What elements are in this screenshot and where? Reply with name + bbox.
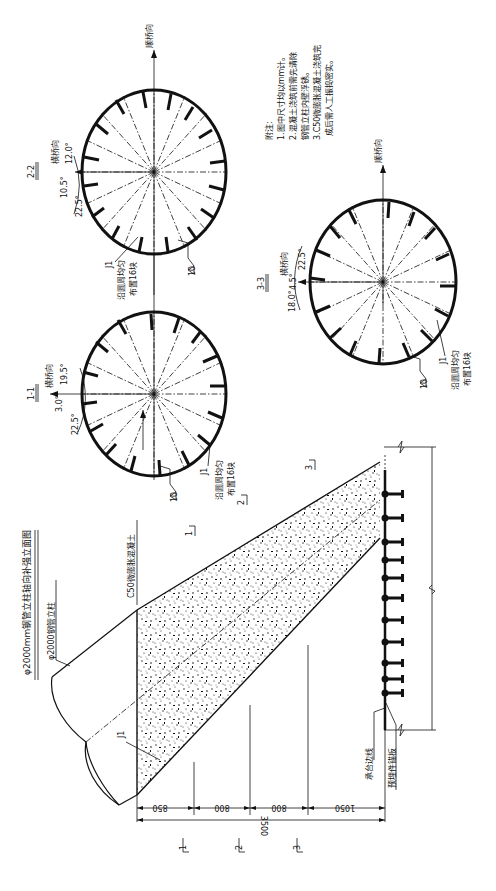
angle-label: 18.0°	[288, 290, 297, 312]
note-item: 3.C50微膨胀混凝土浇筑完	[312, 45, 322, 140]
dimension-value: 800	[271, 803, 286, 812]
longitudinal-direction-label: 顺桥向	[144, 24, 154, 48]
weld-size: 10	[170, 492, 179, 502]
longitudinal-direction-label: 顺桥向	[373, 139, 383, 163]
cap-edge-label: 承台边线	[364, 748, 374, 780]
note-item: 2.混凝土浇筑前需先清除	[288, 52, 298, 140]
distribution-note: 沿圆周均匀	[450, 350, 460, 390]
dimension-value: 1050	[335, 803, 355, 812]
j1-label: J1	[105, 261, 114, 269]
note-item: 1.图中尺寸均以mm计。	[276, 53, 286, 140]
weld-size: 10	[420, 379, 429, 389]
distribution-note: 布置16块	[462, 352, 472, 386]
dimension-total: 3500	[259, 816, 268, 836]
j1-label: J1	[117, 731, 126, 739]
angle-label: 22.5°	[75, 195, 84, 217]
pipe-break-line	[52, 677, 119, 805]
arrow-icon	[380, 165, 386, 173]
section-mark-1: 1	[179, 845, 188, 850]
angle-label: 3.0°	[55, 395, 64, 412]
notes-heading: 附注:	[264, 121, 274, 140]
section-1-1: 1-1 横桥向 19.5° 3.0° 22.5° J1 沿圆周均匀 布置16块 …	[27, 312, 236, 502]
j1-label: J1	[200, 468, 209, 476]
leader-line	[386, 703, 396, 725]
transverse-direction-label: 横桥向	[279, 252, 289, 276]
engineering-drawing: 2-2 横桥向 顺桥向 12.0° 10.5° 22.5° J1 沿圆周均匀 布…	[0, 0, 496, 891]
column-label: φ2000钢管立柱	[46, 602, 56, 660]
drawing-title: φ2000mm钢管立柱轴向补强立面图	[21, 530, 32, 675]
notes-block: 附注: 1.图中尺寸均以mm计。 2.混凝土浇筑前需先清除 钢管立柱内壁浮锈。 …	[264, 45, 334, 140]
j1-label: J1	[439, 357, 448, 365]
weld-leader	[410, 356, 426, 379]
distribution-note: 沿圆周均匀	[214, 460, 224, 500]
pipe-break-line	[85, 742, 119, 805]
angle-label: 22.5°	[298, 248, 307, 270]
anchor-plate-label: 预埋件锚板	[387, 748, 397, 788]
weld-leader	[160, 466, 176, 492]
section-mark-2: 2	[237, 500, 246, 505]
angle-label: 10.5°	[60, 176, 69, 198]
dimension-value: 850	[152, 803, 167, 812]
section-title: 3-3	[257, 277, 266, 290]
note-item: 成后需人工振捣密实。	[324, 56, 334, 136]
weld-size: 10	[188, 266, 197, 276]
section-mark-3: 3	[293, 845, 302, 850]
section-mark-2: 2	[235, 845, 244, 850]
arrow-icon	[140, 410, 146, 418]
arrow-icon	[298, 279, 306, 285]
section-3-3: 3-3 横桥向 顺桥向 4.5° 22.5° 18.0° J1 沿圆周均匀 布置…	[257, 139, 472, 390]
transverse-direction-label: 横桥向	[44, 364, 54, 388]
concrete-label: C50微膨胀混凝土	[126, 534, 136, 598]
concrete-fill	[137, 462, 380, 795]
angle-label: 4.5°	[289, 273, 298, 290]
angle-label: 22.5°	[71, 413, 80, 435]
leader-line	[374, 708, 385, 712]
transverse-direction-label: 横桥向	[50, 140, 60, 164]
angle-label: 12.0°	[65, 142, 74, 164]
distribution-note: 布置16块	[128, 262, 138, 296]
section-mark-1: 1	[185, 531, 194, 536]
dimension-value: 800	[214, 803, 229, 812]
section-title: 1-1	[27, 387, 36, 400]
pipe-edge	[119, 795, 137, 805]
distribution-note: 沿圆周均匀	[116, 260, 126, 300]
section-2-2: 2-2 横桥向 顺桥向 12.0° 10.5° 22.5° J1 沿圆周均匀 布…	[27, 24, 226, 300]
section-mark-3: 3	[305, 465, 314, 470]
distribution-note: 布置16块	[226, 462, 236, 496]
angle-label: 19.5°	[60, 363, 69, 385]
arrow-icon	[151, 50, 157, 58]
section-title: 2-2	[27, 165, 36, 178]
pipe-edge	[52, 610, 137, 677]
note-item: 钢管立柱内壁浮锈。	[300, 68, 310, 140]
